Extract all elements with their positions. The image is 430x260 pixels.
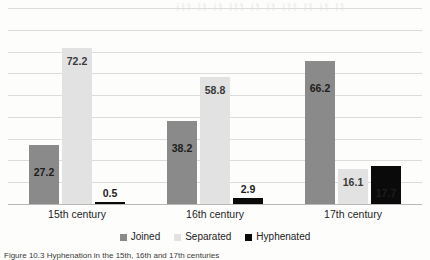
bar-slot: 58.8: [200, 8, 230, 204]
bar-slot: 38.2: [167, 8, 197, 204]
bar-slot: 72.2: [62, 8, 92, 204]
category-label: 16th century: [155, 207, 275, 221]
bar-separated[interactable]: 58.8: [200, 77, 230, 204]
legend-item-joined[interactable]: Joined: [120, 232, 160, 242]
bar-separated[interactable]: 72.2: [62, 48, 92, 204]
chart-legend: JoinedSeparatedHyphenated: [0, 230, 430, 244]
bar-hyphenated[interactable]: 2.9: [233, 198, 263, 204]
bar-value-label: 0.5: [103, 188, 118, 199]
bar-group: 38.258.82.9: [167, 8, 263, 204]
bar-joined[interactable]: 66.2: [305, 61, 335, 204]
bar-slot: 17.7: [371, 8, 401, 204]
category-label: 17th century: [293, 207, 413, 221]
bar-group: 27.272.20.5: [29, 8, 125, 204]
bar-slot: 0.5: [95, 8, 125, 204]
legend-swatch-icon: [174, 234, 181, 241]
legend-swatch-icon: [245, 234, 252, 241]
axis-baseline: [8, 204, 422, 205]
bar-joined[interactable]: 27.2: [29, 145, 59, 204]
figure-container: fl fi fl ffi fl fi ffl fi fl ffi 27.272.…: [0, 0, 430, 260]
legend-swatch-icon: [120, 234, 127, 241]
legend-label: Joined: [131, 232, 160, 242]
category-axis: 15th century16th century17th century: [8, 207, 422, 221]
category-label: 15th century: [17, 207, 137, 221]
bar-joined[interactable]: 38.2: [167, 121, 197, 204]
bar-value-label: 27.2: [34, 167, 54, 178]
bar-separated[interactable]: 16.1: [338, 169, 368, 204]
bar-slot: 2.9: [233, 8, 263, 204]
bar-value-label: 66.2: [310, 83, 330, 94]
bar-slot: 66.2: [305, 8, 335, 204]
legend-label: Separated: [185, 232, 231, 242]
bar-value-label: 17.7: [376, 188, 396, 199]
chart-plot-area: 27.272.20.538.258.82.966.216.117.7: [8, 8, 422, 205]
bar-value-label: 16.1: [343, 177, 363, 188]
bar-value-label: 2.9: [241, 184, 256, 195]
bar-slot: 16.1: [338, 8, 368, 204]
legend-label: Hyphenated: [256, 232, 310, 242]
bar-hyphenated[interactable]: 0.5: [95, 202, 125, 204]
bar-groups: 27.272.20.538.258.82.966.216.117.7: [8, 8, 422, 204]
legend-item-separated[interactable]: Separated: [174, 232, 231, 242]
bar-value-label: 72.2: [67, 56, 87, 67]
bar-slot: 27.2: [29, 8, 59, 204]
figure-caption: Figure 10.3 Hyphenation in the 15th, 16t…: [4, 251, 304, 260]
bar-hyphenated[interactable]: 17.7: [371, 166, 401, 204]
bar-group: 66.216.117.7: [305, 8, 401, 204]
bar-value-label: 58.8: [205, 85, 225, 96]
bar-value-label: 38.2: [172, 143, 192, 154]
legend-item-hyphenated[interactable]: Hyphenated: [245, 232, 310, 242]
